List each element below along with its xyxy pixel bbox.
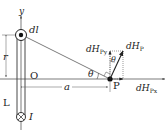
wire-L-label: L	[3, 97, 10, 108]
right-angle-mark	[104, 72, 110, 76]
y-axis-label: y	[18, 6, 25, 16]
current-element-dl-icon	[16, 30, 27, 41]
field-Py-main: dH	[86, 44, 100, 54]
field-P-sub: P	[140, 45, 144, 52]
diagram-canvas: y dl I L r O θ a P θ	[0, 0, 167, 130]
current-source-icon	[17, 113, 26, 122]
field-Py-sub: Py	[100, 48, 108, 56]
element-dl-label: dl	[29, 24, 39, 35]
field-P-label: dHP	[126, 41, 144, 52]
angle-theta-right-label: θ	[111, 55, 116, 64]
angle-theta-left-label: θ	[88, 69, 94, 79]
angle-arc-left	[97, 73, 99, 79]
field-Py-label: dHPy	[86, 44, 108, 56]
distance-a-label: a	[64, 81, 70, 92]
field-Px-label: dHPx	[136, 83, 158, 94]
current-I-label: I	[28, 111, 34, 122]
distance-r-label: r	[3, 51, 9, 62]
field-Px-main: dH	[136, 83, 150, 93]
field-P-main: dH	[126, 41, 140, 51]
field-Px-sub: Px	[150, 87, 158, 94]
point-P-label: P	[113, 80, 120, 91]
